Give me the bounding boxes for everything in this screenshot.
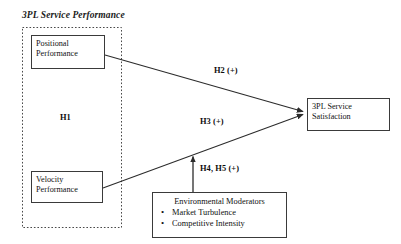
label-h2: H2 (+) (214, 66, 238, 75)
node-3pl-service-satisfaction: 3PL Service Satisfaction (307, 98, 390, 131)
bullet-icon: • (161, 207, 164, 218)
label-h1: H1 (60, 113, 71, 122)
edge-h2-line (105, 55, 303, 112)
label-h3: H3 (+) (200, 117, 224, 126)
moderators-list: • Market Turbulence • Competitive Intens… (153, 207, 286, 229)
node-positional-line2: Performance (36, 49, 104, 59)
node-satisfaction-line1: 3PL Service (312, 102, 389, 112)
bullet-icon: • (161, 218, 164, 229)
moderator-item-label: Competitive Intensity (172, 219, 245, 228)
list-item: • Market Turbulence (161, 207, 286, 218)
node-positional-line1: Positional (36, 39, 104, 49)
node-velocity-line2: Performance (36, 185, 102, 195)
node-velocity-performance: Velocity Performance (31, 171, 103, 203)
node-satisfaction-line2: Satisfaction (312, 112, 389, 122)
node-positional-performance: Positional Performance (31, 35, 105, 69)
moderator-item-label: Market Turbulence (172, 208, 236, 217)
node-environmental-moderators: Environmental Moderators • Market Turbul… (152, 192, 287, 238)
diagram-canvas: 3PL Service Performance Positional Perfo… (0, 0, 401, 244)
moderators-title: Environmental Moderators (153, 196, 286, 207)
label-h4-h5: H4, H5 (+) (200, 164, 239, 173)
node-velocity-line1: Velocity (36, 175, 102, 185)
list-item: • Competitive Intensity (161, 218, 286, 229)
